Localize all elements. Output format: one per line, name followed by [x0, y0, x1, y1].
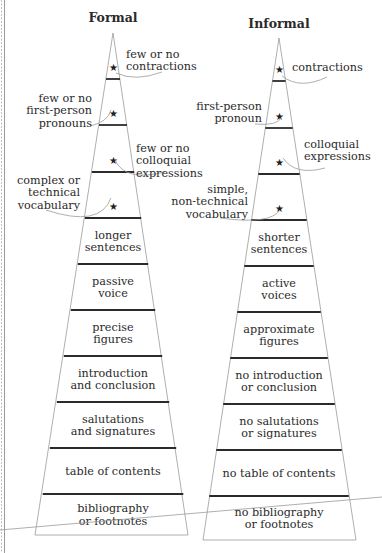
crossing-rule	[0, 497, 382, 530]
tier-label: no introductionor conclusion	[235, 369, 323, 395]
starred-feature-label: contractions	[292, 61, 363, 74]
starred-feature-label: first-personpronoun	[196, 100, 262, 126]
tier-label: table of contents	[65, 465, 161, 478]
star-icon: ★	[275, 203, 284, 214]
tier-label: shortersentences	[251, 231, 308, 256]
star-icon: ★	[109, 62, 118, 73]
tier-label: approximatefigures	[243, 323, 315, 349]
tier-label: no bibliographyor footnotes	[234, 506, 324, 532]
formal-pyramid: Formal ★few or nocontractions★few or nof…	[17, 10, 203, 535]
tier-label: precisefigures	[92, 321, 134, 347]
leader-line	[282, 76, 327, 83]
tier-label: salutationsand signatures	[71, 413, 156, 439]
tier-label: introductionand conclusion	[70, 367, 155, 393]
tier-label: activevoices	[260, 277, 297, 303]
tier-label: passivevoice	[92, 275, 134, 301]
informal-pyramid: Informal ★contractions★first-personprono…	[171, 16, 371, 540]
tier-label: bibliographyor footnotes	[77, 502, 149, 528]
star-icon: ★	[109, 155, 118, 166]
formal-vs-informal-diagram: Formal ★few or nocontractions★few or nof…	[0, 0, 382, 553]
page-edge	[2, 0, 5, 553]
tier-label: no table of contents	[223, 467, 336, 480]
tier-label: no salutationsor signatures	[239, 415, 319, 441]
tier-label: longersentences	[85, 229, 142, 255]
star-icon: ★	[109, 201, 118, 212]
starred-feature-label: complex ortechnicalvocabulary	[17, 174, 81, 212]
starred-feature-label: colloquialexpressions	[304, 138, 371, 164]
star-icon: ★	[275, 157, 284, 168]
informal-title: Informal	[248, 16, 310, 31]
star-icon: ★	[275, 64, 284, 75]
formal-title: Formal	[88, 10, 137, 25]
starred-feature-label: simple,non-technicalvocabulary	[171, 183, 248, 221]
starred-feature-label: few or nocontractions	[126, 48, 197, 74]
starred-feature-label: few or nocolloquialexpressions	[136, 142, 203, 180]
starred-feature-label: few or nofirst-personpronouns	[26, 92, 92, 130]
